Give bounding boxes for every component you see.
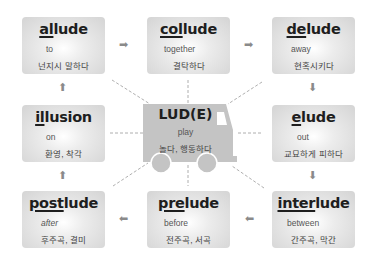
word-card-prelude: prelude before 전주곡, 서곡 [147, 191, 230, 248]
root-suffix: lude [315, 195, 349, 211]
word-interlude: interlude [272, 195, 355, 211]
word-card-allude: allude to 넌지시 말하다 [22, 17, 105, 74]
arrow-left-icon: ⬅ [245, 213, 254, 224]
root-suffix: lude [185, 195, 219, 211]
word-card-illusion: illusion on 환영, 착각 [22, 105, 105, 162]
center-meaning: play [143, 127, 228, 137]
korean-meaning: 환영, 착각 [22, 147, 105, 159]
meaning: before [164, 218, 188, 228]
meaning: together [164, 44, 195, 54]
prefix: col [160, 21, 183, 37]
root-suffix: lude [306, 21, 340, 37]
prefix: e [292, 109, 302, 125]
root-suffix: lude [53, 21, 87, 37]
korean-meaning: 후주곡, 결미 [22, 233, 105, 245]
arrow-right-icon: ➡ [244, 39, 253, 50]
arrow-right-icon: ➡ [119, 39, 128, 50]
root-suffix: lude [183, 21, 217, 37]
word-card-interlude: interlude between 간주곡, 막간 [272, 191, 355, 248]
word-elude: elude [272, 109, 355, 125]
word-card-postlude: postlude after 후주곡, 결미 [22, 191, 105, 248]
word-prelude: prelude [147, 195, 230, 211]
center-root-card: LUD(E) play 놀다, 행동하다 [143, 106, 228, 154]
meaning: out [297, 132, 309, 142]
word-allude: allude [22, 21, 105, 37]
meaning: after [41, 218, 58, 228]
korean-meaning: 넌지시 말하다 [22, 59, 105, 71]
prefix: inter [277, 195, 315, 211]
word-illusion: illusion [22, 109, 105, 125]
meaning: to [46, 44, 53, 54]
prefix: de [287, 21, 307, 37]
meaning: between [287, 218, 319, 228]
arrow-down-icon: ⬇ [308, 82, 317, 93]
center-korean: 놀다, 행동하다 [143, 142, 228, 154]
root-suffix: lusion [44, 109, 91, 125]
korean-meaning: 간주곡, 막간 [272, 233, 355, 245]
word-family-diagram: LUD(E) play 놀다, 행동하다 allude to 넌지시 말하다 c… [0, 0, 375, 264]
word-delude: delude [272, 21, 355, 37]
prefix: pre [158, 195, 184, 211]
meaning: on [46, 132, 55, 142]
root-suffix: lude [301, 109, 335, 125]
word-postlude: postlude [22, 195, 105, 211]
word-card-delude: delude away 현혹시키다 [272, 17, 355, 74]
word-card-elude: elude out 교묘하게 피하다 [272, 105, 355, 162]
root-suffix: lude [64, 195, 98, 211]
arrow-up-icon: ⬆ [58, 170, 67, 181]
korean-meaning: 결탁하다 [147, 59, 230, 71]
prefix: al [39, 21, 53, 37]
word-card-collude: collude together 결탁하다 [147, 17, 230, 74]
center-root: LUD(E) [143, 106, 228, 122]
korean-meaning: 전주곡, 서곡 [147, 233, 230, 245]
word-collude: collude [147, 21, 230, 37]
arrow-left-icon: ⬅ [119, 213, 128, 224]
arrow-down-icon: ⬇ [308, 170, 317, 181]
arrow-up-icon: ⬆ [58, 82, 67, 93]
korean-meaning: 교묘하게 피하다 [272, 147, 355, 159]
meaning: away [291, 44, 311, 54]
korean-meaning: 현혹시키다 [272, 59, 355, 71]
prefix: post [29, 195, 64, 211]
